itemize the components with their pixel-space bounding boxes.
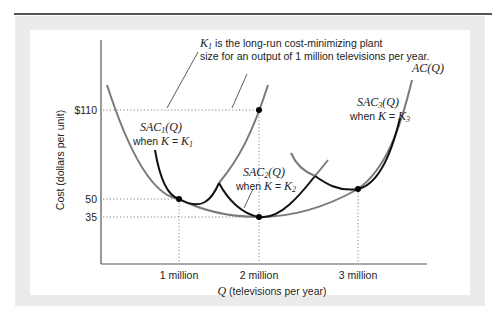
annotation-line-1: K1 is the long-run cost-minimizing plant <box>199 36 383 51</box>
sac1-leader-line <box>232 74 247 108</box>
sac1-condition: when K = K1 <box>132 134 193 149</box>
note-leader-line <box>167 52 198 108</box>
y-tick-50: 50 <box>85 193 97 205</box>
sac3-label: SAC3(Q) <box>357 95 399 110</box>
sac1-curve <box>155 150 219 204</box>
tangent-point-2m <box>256 214 262 220</box>
tangent-point-3m <box>355 186 361 192</box>
tangent-point-1m <box>176 196 182 202</box>
sac2-condition: when K = K2 <box>235 179 296 194</box>
x-tick-1m: 1 million <box>160 269 199 281</box>
sac1-label: SAC1(Q) <box>140 120 182 135</box>
y-axis-title: Cost (dollars per unit) <box>54 110 66 210</box>
sac2-label: SAC2(Q) <box>243 165 285 180</box>
y-tick-35: 35 <box>85 211 97 223</box>
sac3-condition: when K = K3 <box>349 109 410 124</box>
sac2-curve-gray-extension <box>315 160 328 176</box>
cost-curves-chart: $110 50 35 Cost (dollars per unit) 1 mil… <box>0 0 500 315</box>
x-axis-title: Q (televisions per year) <box>217 284 326 298</box>
x-tick-3m: 3 million <box>339 269 378 281</box>
annotation-line-2: size for an output of 1 million televisi… <box>200 50 429 62</box>
point-2m-110 <box>256 107 262 113</box>
y-tick-110: $110 <box>74 104 97 116</box>
x-tick-2m: 2 million <box>240 269 279 281</box>
ac-curve-label: AC(Q) <box>411 61 444 75</box>
sac3-curve-gray-left <box>291 153 315 176</box>
